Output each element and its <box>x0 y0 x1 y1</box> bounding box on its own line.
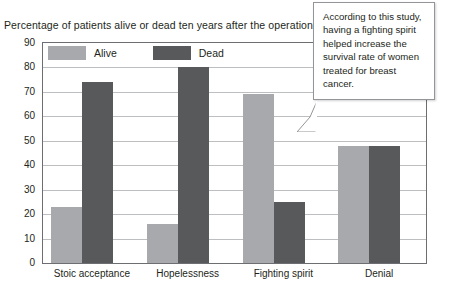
chart-container: Percentage of patients alive or dead ten… <box>0 0 461 292</box>
x-tick-label: Fighting spirit <box>254 268 313 279</box>
y-tick-label: 30 <box>24 183 35 194</box>
legend-label-dead: Dead <box>199 47 224 59</box>
y-tick-label: 80 <box>24 61 35 72</box>
x-tick-label: Denial <box>365 268 393 279</box>
bar-alive <box>147 224 178 263</box>
y-tick-label: 90 <box>24 37 35 48</box>
legend-swatch-alive-icon <box>48 46 86 60</box>
y-tick-label: 20 <box>24 208 35 219</box>
bar-alive <box>51 207 82 263</box>
y-tick-label: 50 <box>24 134 35 145</box>
legend-swatch-dead-icon <box>153 46 191 60</box>
y-tick-label: 60 <box>24 110 35 121</box>
chart-legend: Alive Dead <box>48 46 224 60</box>
bar-alive <box>243 94 274 263</box>
y-tick-label: 0 <box>29 257 35 268</box>
annotation-callout: According to this study, having a fighti… <box>313 2 435 100</box>
legend-item-alive: Alive <box>48 46 117 60</box>
x-tick-label: Hopelessness <box>156 268 219 279</box>
bar-group <box>43 43 139 263</box>
legend-label-alive: Alive <box>94 47 117 59</box>
bar-group <box>139 43 235 263</box>
bar-dead <box>274 202 305 263</box>
legend-item-dead: Dead <box>153 46 224 60</box>
y-tick-label: 40 <box>24 159 35 170</box>
y-tick-label: 10 <box>24 232 35 243</box>
chart-title: Percentage of patients alive or dead ten… <box>4 19 313 31</box>
bar-dead <box>82 82 113 263</box>
x-tick-label: Stoic acceptance <box>54 268 130 279</box>
x-axis-labels: Stoic acceptanceHopelessnessFighting spi… <box>43 268 426 288</box>
callout-pointer-icon <box>297 101 317 132</box>
y-axis: 9080706050403020100 <box>0 42 42 264</box>
y-tick-label: 70 <box>24 85 35 96</box>
bar-dead <box>369 146 400 263</box>
bar-dead <box>178 67 209 263</box>
bar-alive <box>338 146 369 263</box>
